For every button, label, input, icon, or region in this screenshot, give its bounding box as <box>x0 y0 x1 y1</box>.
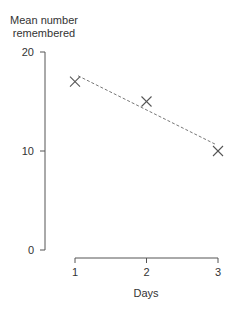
x-axis-ticks: 123 <box>72 258 221 278</box>
y-axis-ticks: 01020 <box>22 46 45 256</box>
x-axis-label: Days <box>133 287 159 299</box>
trend-line <box>78 76 215 144</box>
y-tick-label: 0 <box>28 244 34 256</box>
data-markers <box>70 77 223 156</box>
x-tick-label: 2 <box>143 266 149 278</box>
y-tick-label: 10 <box>22 145 34 157</box>
y-tick-label: 20 <box>22 46 34 58</box>
x-marker-icon <box>70 77 80 87</box>
x-tick-label: 1 <box>72 266 78 278</box>
x-marker-icon <box>142 97 152 107</box>
x-marker-icon <box>213 146 223 156</box>
chart-plot-area: 01020 123 Days <box>0 0 237 315</box>
x-tick-label: 3 <box>215 266 221 278</box>
